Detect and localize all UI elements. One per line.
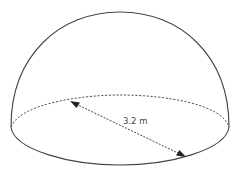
hemisphere-diagram: 3.2 m: [0, 0, 242, 185]
diameter-label: 3.2 m: [123, 116, 148, 126]
diameter-line: [76, 104, 180, 154]
arrowhead-end-icon: [176, 150, 186, 157]
base-back-edge-dashed: [11, 95, 229, 127]
dome-outline: [11, 12, 229, 127]
arrowhead-start-icon: [70, 101, 80, 108]
base-front-edge: [11, 127, 229, 165]
